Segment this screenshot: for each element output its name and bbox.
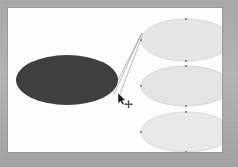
selection-handle[interactable]	[185, 18, 187, 20]
shape-layer	[16, 19, 222, 152]
light-ellipse-middle[interactable]	[141, 66, 222, 106]
canvas-vector-layer[interactable]	[8, 8, 222, 152]
connector-cursor-to-top-b[interactable]	[120, 34, 143, 94]
light-ellipse-bottom[interactable]	[141, 112, 222, 152]
connector-layer	[114, 33, 143, 94]
selection-handle[interactable]	[140, 131, 142, 133]
selection-handle[interactable]	[185, 60, 187, 62]
application-window: Diagram Canvas	[0, 0, 238, 167]
selection-handle[interactable]	[140, 39, 142, 41]
selection-handle[interactable]	[185, 65, 187, 67]
selection-handle[interactable]	[140, 85, 142, 87]
selection-handle[interactable]	[185, 105, 187, 107]
selection-handle[interactable]	[185, 111, 187, 113]
connector-cursor-to-top-a[interactable]	[114, 33, 142, 94]
light-ellipse-top[interactable]	[141, 19, 222, 61]
drawing-canvas[interactable]	[8, 8, 222, 152]
dark-ellipse[interactable]	[16, 55, 118, 105]
selection-handle[interactable]	[185, 151, 187, 152]
